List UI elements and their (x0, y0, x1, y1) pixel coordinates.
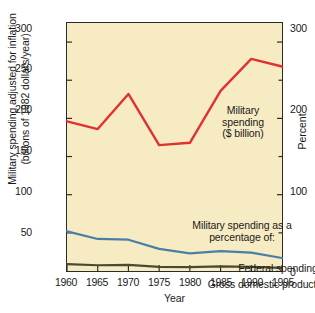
xtick-label-1975: 1975 (142, 277, 176, 288)
xtick-label-1960: 1960 (49, 277, 83, 288)
xtick-label-1980: 1980 (173, 277, 207, 288)
y-axis-label-left: Military spending adjusted for inflation… (6, 0, 32, 204)
annotation-percentage-line1: Military spending as a (167, 220, 315, 232)
xtick-label-1965: 1965 (80, 277, 114, 288)
chart-figure: Military spending ($ billion) Military s… (0, 0, 315, 313)
left-axis-ticks (67, 42, 72, 233)
ytick-label-right-100: 100 (290, 186, 314, 197)
ytick-label-left-50: 50 (6, 227, 32, 238)
ytick-label-right-300: 300 (290, 23, 314, 34)
plot-area: Military spending ($ billion) Military s… (66, 22, 283, 272)
annotation-percentage-of: Military spending as a percentage of: (167, 220, 315, 243)
xtick-label-1970: 1970 (111, 277, 145, 288)
annotation-military-line3: ($ billion) (195, 128, 291, 140)
y-axis-label-right: Percent (297, 82, 308, 182)
xtick-label-1985: 1985 (204, 277, 238, 288)
y-axis-label-left-line1: Military spending adjusted for inflation (6, 0, 19, 204)
y-axis-label-left-line2: (billions of 1982 dollars/year) (19, 0, 32, 204)
x-axis-label: Year (66, 293, 283, 304)
annotation-percentage-line2: percentage of: (167, 232, 315, 244)
annotation-military-spending: Military spending ($ billion) (195, 105, 291, 140)
annotation-military-line1: Military (195, 105, 291, 117)
xtick-label-1990: 1990 (235, 277, 269, 288)
xtick-label-1995: 1995 (266, 277, 300, 288)
